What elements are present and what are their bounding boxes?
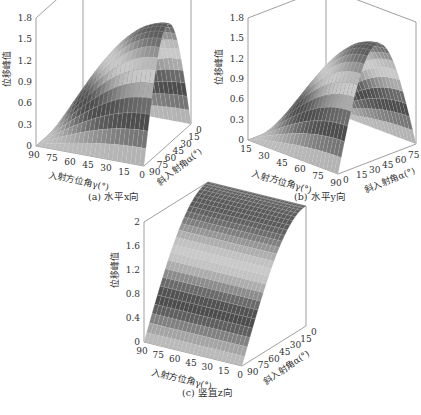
svg-text:0.9: 0.9 <box>18 77 33 87</box>
svg-text:0: 0 <box>343 175 349 185</box>
svg-text:0.8: 0.8 <box>126 289 141 299</box>
svg-text:1.8: 1.8 <box>18 13 33 23</box>
svg-text:1.2: 1.2 <box>18 56 32 66</box>
chart-panel-a: 00.30.60.91.21.51.8位移峰值9075604530150入射方位… <box>0 0 210 210</box>
svg-text:30: 30 <box>100 163 112 173</box>
z-axis-label: 位移峰值 <box>213 49 224 85</box>
svg-text:75: 75 <box>46 153 58 163</box>
svg-text:0: 0 <box>196 125 202 135</box>
svg-text:45: 45 <box>382 160 394 170</box>
svg-text:90: 90 <box>136 346 148 356</box>
svg-text:75: 75 <box>408 150 420 160</box>
svg-text:0.9: 0.9 <box>230 74 245 84</box>
svg-text:90: 90 <box>28 150 40 160</box>
surface-plot-a: 00.30.60.91.21.51.8位移峰值9075604530150入射方位… <box>0 0 210 200</box>
svg-text:15: 15 <box>118 167 130 177</box>
svg-text:15: 15 <box>356 170 368 180</box>
svg-text:0.6: 0.6 <box>18 98 33 108</box>
svg-text:2: 2 <box>134 217 140 227</box>
svg-text:1.8: 1.8 <box>230 13 245 23</box>
svg-text:30: 30 <box>258 151 270 161</box>
caption-c: (c) 竖直z向 <box>182 385 233 399</box>
svg-text:1.2: 1.2 <box>230 54 244 64</box>
svg-text:0.4: 0.4 <box>126 313 141 323</box>
svg-text:0: 0 <box>237 370 243 380</box>
svg-text:60: 60 <box>169 354 181 364</box>
svg-text:60: 60 <box>294 164 306 174</box>
svg-text:30: 30 <box>369 165 381 175</box>
surface <box>248 41 416 174</box>
z-axis-ticks: 00.30.60.91.21.51.8 <box>18 13 33 151</box>
svg-text:75: 75 <box>312 171 324 181</box>
z-axis-ticks: 00.30.60.91.21.51.8 <box>230 13 245 145</box>
svg-text:1.6: 1.6 <box>126 241 141 251</box>
z-axis-ticks: 00.40.81.21.62 <box>126 217 141 347</box>
svg-text:75: 75 <box>153 350 165 360</box>
svg-text:60: 60 <box>64 157 76 167</box>
svg-text:15: 15 <box>240 144 252 154</box>
svg-text:0.3: 0.3 <box>230 115 245 125</box>
svg-text:45: 45 <box>185 358 197 368</box>
svg-text:1.2: 1.2 <box>126 265 140 275</box>
svg-text:0: 0 <box>311 327 317 337</box>
caption-a: (a) 水平x向 <box>88 189 139 203</box>
svg-text:15: 15 <box>218 366 230 376</box>
svg-text:0.6: 0.6 <box>230 94 245 104</box>
svg-text:30: 30 <box>202 362 214 372</box>
svg-text:60: 60 <box>395 155 407 165</box>
svg-text:90: 90 <box>330 178 342 188</box>
svg-text:0: 0 <box>139 170 145 180</box>
chart-panel-c: 00.40.81.21.62位移峰值9075604530150入射方位角γ(°)… <box>100 210 330 400</box>
surface <box>144 182 306 366</box>
surface-plot-b: 00.30.60.91.21.51.8位移峰值153045607590入射方位角… <box>210 0 421 200</box>
svg-text:45: 45 <box>276 158 288 168</box>
surface-plot-c: 00.40.81.21.62位移峰值9075604530150入射方位角γ(°)… <box>100 210 330 390</box>
caption-b: (b) 水平y向 <box>294 189 346 203</box>
z-axis-label: 位移峰值 <box>1 51 12 87</box>
svg-text:45: 45 <box>82 160 94 170</box>
svg-text:1.5: 1.5 <box>18 34 33 44</box>
z-axis-label: 位移峰值 <box>109 252 120 288</box>
svg-text:1.5: 1.5 <box>230 33 245 43</box>
svg-text:0.3: 0.3 <box>18 120 33 130</box>
chart-panel-b: 00.30.60.91.21.51.8位移峰值153045607590入射方位角… <box>210 0 421 210</box>
